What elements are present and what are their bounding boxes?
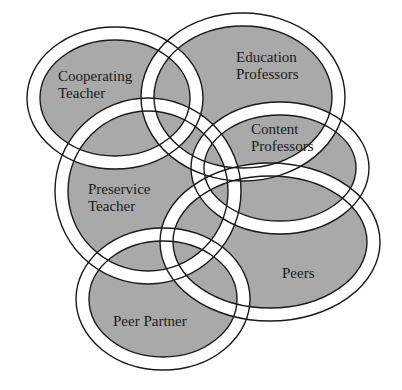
label-peers: Peers xyxy=(282,265,315,282)
support-network-diagram: Cooperating Teacher Education Professors… xyxy=(0,0,402,390)
label-cooperating-teacher: Cooperating Teacher xyxy=(58,68,132,102)
label-peer-partner: Peer Partner xyxy=(113,313,187,330)
label-content-professors: Content Professors xyxy=(251,121,314,155)
label-preservice-teacher: Preservice Teacher xyxy=(88,181,150,215)
label-education-professors: Education Professors xyxy=(236,49,299,83)
overlapping-ellipses xyxy=(0,0,402,390)
